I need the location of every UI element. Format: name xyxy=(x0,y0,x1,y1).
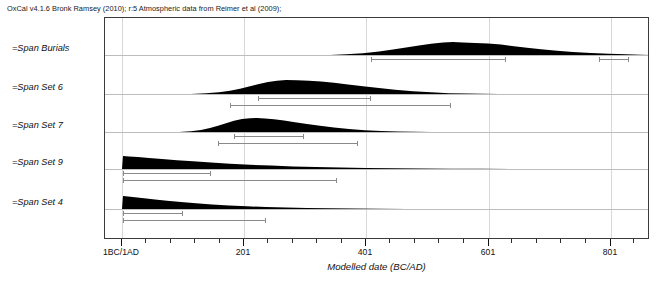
range-bar-cap-right xyxy=(628,57,629,62)
range-bar-line xyxy=(218,143,358,144)
axis-tick-minor xyxy=(511,239,512,243)
range-bar-cap-right xyxy=(210,171,211,176)
row-label-span-set-6: =Span Set 6 xyxy=(12,82,63,92)
figure-credit-text: OxCal v4.1.6 Bronk Ramsey (2010); r:5 At… xyxy=(7,4,281,13)
range-bar-line xyxy=(371,59,506,60)
range-bar-line xyxy=(258,98,371,99)
axis-tick-minor xyxy=(536,239,537,243)
range-bar-line xyxy=(230,105,451,106)
range-bar-cap-left xyxy=(230,103,231,108)
axis-tick-minor xyxy=(194,239,195,243)
range-bar xyxy=(123,178,337,183)
range-bar-cap-right xyxy=(336,178,337,183)
axis-tick-minor xyxy=(145,239,146,243)
axis-tick-minor xyxy=(267,239,268,243)
range-bar-cap-left xyxy=(258,96,259,101)
axis-tick-major xyxy=(488,239,489,246)
range-bar-cap-right xyxy=(265,218,266,223)
range-bar-cap-left xyxy=(599,57,600,62)
axis-tick-minor xyxy=(633,239,634,243)
axis-tick-major xyxy=(610,239,611,246)
range-bar xyxy=(371,57,506,62)
range-bar-cap-left xyxy=(123,178,124,183)
probability-distribution xyxy=(179,118,433,134)
axis-tick-label: 1BC/1AD xyxy=(103,247,139,257)
axis-tick-minor xyxy=(292,239,293,243)
range-bar-cap-left xyxy=(234,134,235,139)
range-bar-cap-right xyxy=(303,134,304,139)
range-bar xyxy=(218,141,358,146)
range-bar-line xyxy=(123,180,337,181)
range-bar xyxy=(258,96,371,101)
axis-tick-major xyxy=(365,239,366,246)
axis-tick-minor xyxy=(341,239,342,243)
range-bar-cap-left xyxy=(123,171,124,176)
axis-tick-label: 601 xyxy=(481,247,495,257)
probability-distribution xyxy=(122,156,523,171)
range-bar-cap-right xyxy=(182,211,183,216)
range-bar-cap-right xyxy=(450,103,451,108)
range-bar xyxy=(234,134,304,139)
axis-tick-minor xyxy=(463,239,464,243)
x-axis: 1BC/1AD201401601801 Modelled date (BC/AD… xyxy=(104,239,649,282)
range-bar xyxy=(230,103,451,108)
axis-tick-minor xyxy=(414,239,415,243)
axis-tick-major xyxy=(121,239,122,246)
range-bar-cap-left xyxy=(123,218,124,223)
range-bar-cap-right xyxy=(505,57,506,62)
range-bar-line xyxy=(123,220,266,221)
probability-distribution xyxy=(191,80,501,96)
axis-tick-minor xyxy=(389,239,390,243)
range-bar xyxy=(123,171,211,176)
axis-tick-minor xyxy=(560,239,561,243)
row-label-span-burials: =Span Burials xyxy=(12,43,69,53)
probability-distribution xyxy=(330,42,652,57)
axis-tick-minor xyxy=(219,239,220,243)
range-bar-cap-left xyxy=(218,141,219,146)
axis-title: Modelled date (BC/AD) xyxy=(104,261,649,272)
range-bar-cap-right xyxy=(370,96,371,101)
axis-tick-label: 201 xyxy=(236,247,250,257)
axis-tick-label: 401 xyxy=(358,247,372,257)
axis-tick-minor xyxy=(438,239,439,243)
oxcal-figure: OxCal v4.1.6 Bronk Ramsey (2010); r:5 At… xyxy=(0,0,658,282)
row-label-span-set-4: =Span Set 4 xyxy=(12,197,63,207)
row-label-span-set-9: =Span Set 9 xyxy=(12,157,63,167)
range-bar-line xyxy=(234,136,304,137)
range-bar-line xyxy=(123,213,183,214)
plot-area xyxy=(104,17,649,239)
axis-tick-minor xyxy=(585,239,586,243)
axis-tick-minor xyxy=(170,239,171,243)
range-bar-cap-left xyxy=(123,211,124,216)
axis-tick-label: 801 xyxy=(603,247,617,257)
axis-tick-major xyxy=(243,239,244,246)
row-label-span-set-7: =Span Set 7 xyxy=(12,120,63,130)
range-bar-cap-right xyxy=(357,141,358,146)
range-bar xyxy=(123,218,266,223)
axis-tick-minor xyxy=(316,239,317,243)
range-bar-line xyxy=(123,173,211,174)
range-bar-line xyxy=(599,59,629,60)
probability-distribution xyxy=(122,196,408,211)
range-bar xyxy=(123,211,183,216)
range-bar-cap-left xyxy=(371,57,372,62)
range-bar xyxy=(599,57,629,62)
